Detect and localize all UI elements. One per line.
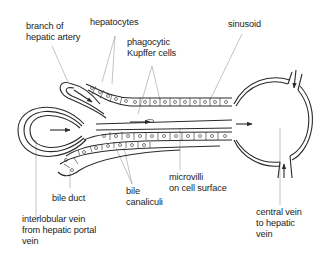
label-microvilli: microvilli on cell surface bbox=[169, 172, 227, 194]
label-central-vein: central vein to hepatic vein bbox=[256, 207, 302, 240]
central-vein bbox=[234, 78, 312, 166]
interlobular-vein bbox=[18, 107, 86, 156]
upper-cord-cells bbox=[134, 98, 228, 106]
label-bile-duct: bile duct bbox=[52, 193, 85, 204]
label-kupffer-cells: phagocytic Kupffer cells bbox=[127, 37, 176, 59]
vessel-drawing bbox=[18, 70, 312, 178]
label-hepatocytes: hepatocytes bbox=[90, 17, 138, 28]
label-interlobular-vein: interlobular vein from hepatic portal ve… bbox=[22, 214, 96, 247]
label-branch-hepatic-artery: branch of hepatic artery bbox=[26, 21, 80, 43]
label-sinusoid: sinusoid bbox=[228, 19, 261, 30]
label-bile-canaliculi: bile canaliculi bbox=[126, 186, 163, 208]
